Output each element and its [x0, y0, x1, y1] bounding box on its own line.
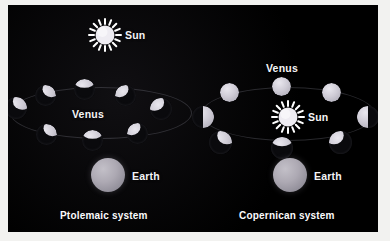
venus-disc [357, 106, 378, 128]
venus-disc [322, 83, 341, 102]
venus-disc [329, 131, 352, 154]
panel-caption-copernican: Copernican system [239, 210, 335, 221]
diagram-panel: Sun [8, 5, 378, 232]
venus-disc [150, 98, 172, 120]
venus-disc [35, 85, 56, 106]
venus-disc [74, 79, 95, 100]
sun-label: Sun [308, 111, 328, 123]
venus-disc [192, 106, 214, 128]
figure-stage: Sun [0, 0, 390, 241]
venus-label: Venus [266, 62, 298, 74]
panel-caption-ptolemaic: Ptolemaic system [60, 210, 148, 221]
venus-disc [272, 77, 291, 96]
earth-body [91, 158, 125, 192]
sun-label: Sun [125, 29, 145, 41]
venus-disc [209, 131, 232, 154]
venus-disc [271, 137, 293, 159]
venus-disc [115, 85, 136, 106]
sun-icon [271, 100, 305, 134]
earth-body [273, 158, 307, 192]
venus-label: Venus [72, 108, 104, 120]
venus-disc [127, 123, 148, 144]
venus-disc [220, 83, 239, 102]
venus-disc [36, 124, 57, 145]
earth-label: Earth [314, 170, 342, 182]
panel-ptolemaic: Sun [8, 5, 193, 232]
venus-disc [82, 130, 103, 151]
panel-copernican: Venus [193, 5, 378, 232]
sun-icon [88, 18, 122, 52]
earth-label: Earth [132, 170, 160, 182]
